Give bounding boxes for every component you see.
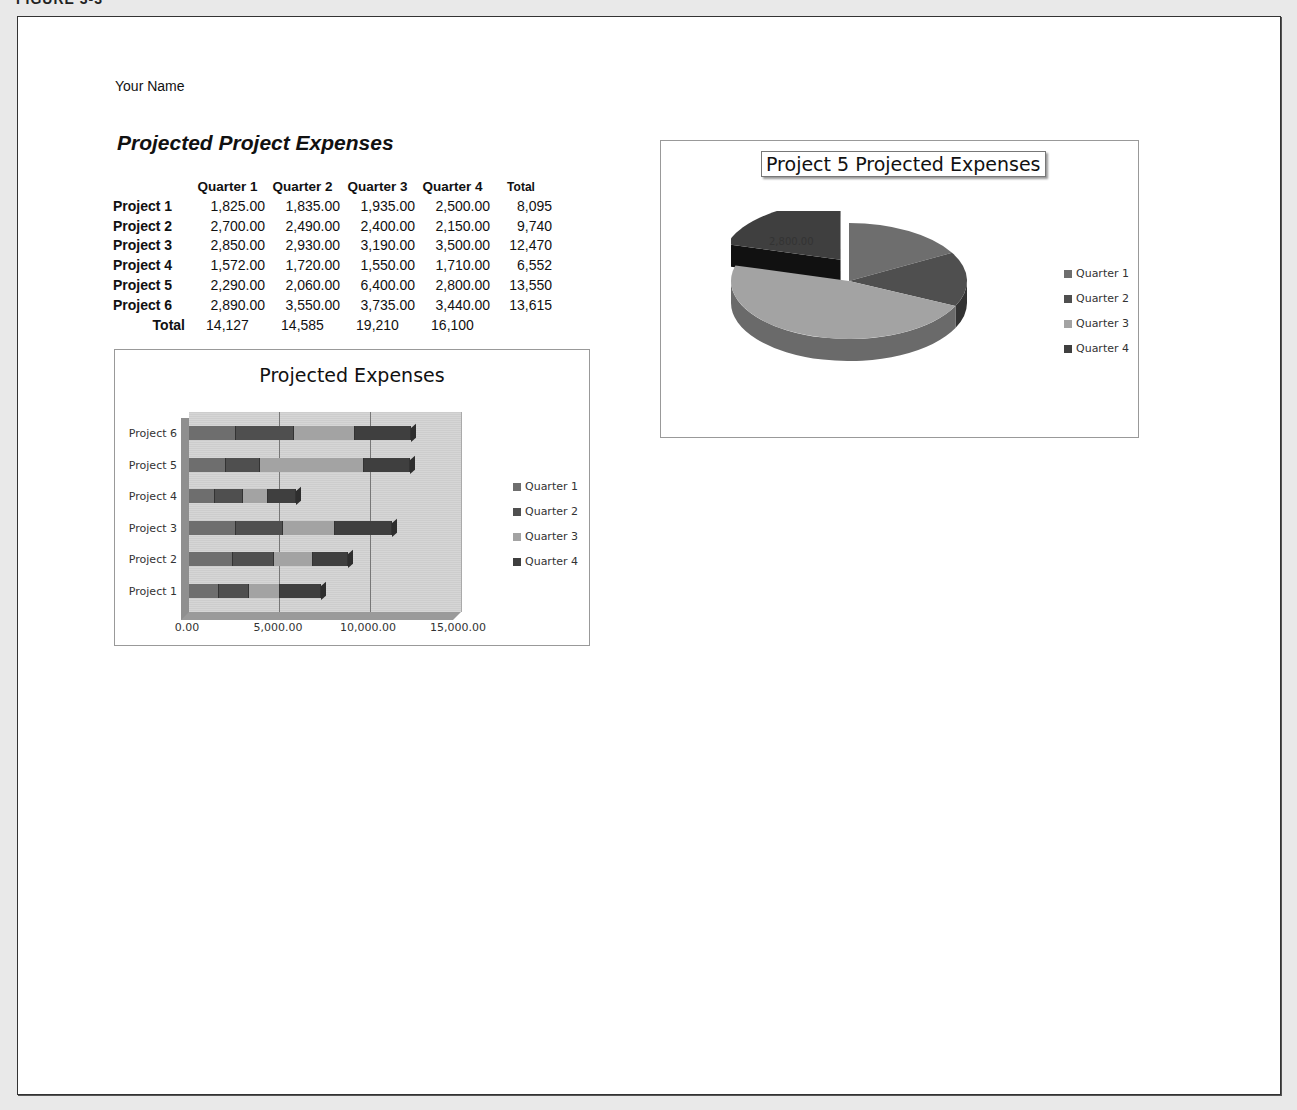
table-row: Project 3 2,850.00 2,930.00 3,190.00 3,5… (113, 236, 552, 256)
header-quarter-2: Quarter 2 (265, 177, 340, 196)
legend-swatch-icon (513, 483, 521, 491)
cell-q4: 2,500.00 (415, 196, 490, 216)
bar-segment (236, 521, 284, 535)
cell-q2: 1,835.00 (265, 196, 340, 216)
y-label: Project 3 (115, 522, 177, 535)
bar-segment (313, 552, 348, 566)
legend-label: Quarter 1 (1076, 267, 1129, 280)
plot-floor (181, 612, 461, 620)
x-tick: 0.00 (175, 621, 200, 634)
legend-item-quarter-1: Quarter 1 (1064, 261, 1129, 286)
header-quarter-1: Quarter 1 (190, 177, 265, 196)
row-label: Project 2 (113, 216, 190, 236)
bar-end-cap (411, 424, 416, 442)
your-name-text: Your Name (115, 78, 185, 94)
total-q2: 14,585 (265, 315, 340, 335)
bar-segment (364, 458, 410, 472)
bar-project-4 (189, 489, 301, 503)
bar-chart-title: Projected Expenses (115, 364, 589, 386)
cell-q3: 1,935.00 (340, 196, 415, 216)
legend-swatch-icon (1064, 270, 1072, 278)
bar-end-cap (410, 455, 415, 473)
cell-q1: 2,850.00 (190, 236, 265, 256)
gridline-5000 (279, 412, 280, 612)
x-tick: 10,000.00 (340, 621, 396, 634)
bar-end-cap (392, 519, 397, 537)
bar-end-cap (348, 550, 353, 568)
cell-total: 12,470 (490, 236, 552, 256)
cell-q4: 2,150.00 (415, 216, 490, 236)
cell-q2: 1,720.00 (265, 255, 340, 275)
legend-label: Quarter 2 (1076, 292, 1129, 305)
y-label: Project 5 (115, 459, 177, 472)
cell-total: 13,550 (490, 275, 552, 295)
cell-q3: 6,400.00 (340, 275, 415, 295)
row-label: Project 3 (113, 236, 190, 256)
legend-item-quarter-3: Quarter 3 (513, 524, 578, 549)
total-q3: 19,210 (340, 315, 415, 335)
row-label: Project 5 (113, 275, 190, 295)
table-row: Project 6 2,890.00 3,550.00 3,735.00 3,4… (113, 295, 552, 315)
bar-segment (189, 521, 236, 535)
table-row: Project 4 1,572.00 1,720.00 1,550.00 1,7… (113, 255, 552, 275)
bar-end-cap (296, 487, 301, 505)
cell-q1: 1,825.00 (190, 196, 265, 216)
x-tick: 5,000.00 (254, 621, 303, 634)
cell-q3: 1,550.00 (340, 255, 415, 275)
cell-q1: 2,890.00 (190, 295, 265, 315)
legend-swatch-icon (1064, 295, 1072, 303)
projected-expenses-bar-chart[interactable]: Projected Expenses Project 6 Project 5 P… (114, 349, 590, 646)
cell-q2: 3,550.00 (265, 295, 340, 315)
bar-segment (189, 552, 233, 566)
legend-item-quarter-3: Quarter 3 (1064, 311, 1129, 336)
project-5-pie-chart[interactable]: Project 5 Projected Expenses 2,800.00 Qu… (660, 140, 1139, 438)
cell-q2: 2,930.00 (265, 236, 340, 256)
cell-q2: 2,490.00 (265, 216, 340, 236)
bar-segment (274, 552, 313, 566)
cell-q3: 3,735.00 (340, 295, 415, 315)
header-quarter-3: Quarter 3 (340, 177, 415, 196)
row-label: Project 6 (113, 295, 190, 315)
cell-q4: 3,440.00 (415, 295, 490, 315)
y-label: Project 6 (115, 427, 177, 440)
y-label: Project 2 (115, 553, 177, 566)
bar-plot-area (189, 412, 462, 612)
totals-row: Total 14,127 14,585 19,210 16,100 (113, 315, 552, 335)
bar-segment (233, 552, 274, 566)
cell-total: 9,740 (490, 216, 552, 236)
cell-q2: 2,060.00 (265, 275, 340, 295)
y-label: Project 4 (115, 490, 177, 503)
cell-q1: 1,572.00 (190, 255, 265, 275)
row-label: Project 1 (113, 196, 190, 216)
cell-q1: 2,290.00 (190, 275, 265, 295)
bar-segment (260, 458, 364, 472)
pie-chart-legend: Quarter 1 Quarter 2 Quarter 3 Quarter 4 (1064, 261, 1129, 361)
bar-segment (355, 426, 411, 440)
cell-total: 6,552 (490, 255, 552, 275)
bar-segment (189, 458, 226, 472)
table-row: Project 5 2,290.00 2,060.00 6,400.00 2,8… (113, 275, 552, 295)
cell-q1: 2,700.00 (190, 216, 265, 236)
bar-segment (226, 458, 260, 472)
cell-q4: 3,500.00 (415, 236, 490, 256)
row-label: Project 4 (113, 255, 190, 275)
header-quarter-4: Quarter 4 (415, 177, 490, 196)
cell-q4: 2,800.00 (415, 275, 490, 295)
legend-swatch-icon (513, 533, 521, 541)
table-row: Project 1 1,825.00 1,835.00 1,935.00 2,5… (113, 196, 552, 216)
cell-q4: 1,710.00 (415, 255, 490, 275)
bar-segment (294, 426, 355, 440)
plot-side-wall (181, 418, 189, 620)
x-tick: 15,000.00 (430, 621, 486, 634)
pie-chart-title: Project 5 Projected Expenses (761, 151, 1046, 177)
legend-item-quarter-4: Quarter 4 (1064, 336, 1129, 361)
header-blank (113, 177, 190, 196)
bar-segment (219, 584, 249, 598)
legend-swatch-icon (513, 558, 521, 566)
pie-data-label: 2,800.00 (769, 236, 814, 247)
header-total: Total (490, 177, 552, 196)
totals-label: Total (113, 315, 190, 335)
table-row: Project 2 2,700.00 2,490.00 2,400.00 2,1… (113, 216, 552, 236)
legend-item-quarter-2: Quarter 2 (513, 499, 578, 524)
total-q1: 14,127 (190, 315, 265, 335)
